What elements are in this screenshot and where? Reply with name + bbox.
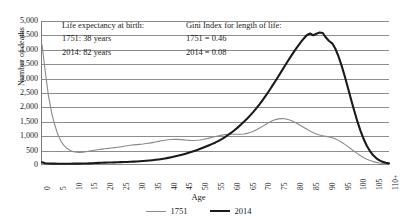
legend-item-2014: 2014 — [210, 206, 252, 216]
y-tick-label: 2,500 — [4, 89, 38, 97]
annotation-life-expectancy-2014: 2014: 82 years — [62, 48, 111, 57]
annotation-life-expectancy-title: Life expectancy at birth: — [62, 21, 144, 30]
x-tick-label: 35 — [155, 183, 163, 191]
x-tick-label: 45 — [186, 183, 194, 191]
chart-legend: 17512014 — [0, 206, 397, 216]
x-tick-label: 95 — [345, 183, 353, 191]
y-tick-label: 5,000 — [4, 17, 38, 25]
y-tick-label: 4,500 — [4, 31, 38, 39]
series-line-1751 — [42, 44, 389, 163]
x-tick-label: 0 — [44, 186, 52, 190]
y-tick-label: 0 — [4, 161, 38, 169]
x-tick-label: 25 — [123, 183, 131, 191]
y-tick-label: 1,500 — [4, 118, 38, 126]
x-tick-label: 30 — [139, 183, 147, 191]
x-axis-title: Age — [0, 192, 397, 202]
x-tick-label: 105 — [376, 179, 384, 190]
x-tick-label: 85 — [313, 183, 321, 191]
x-tick-label: 100 — [360, 179, 368, 190]
y-tick-label: 500 — [4, 147, 38, 155]
y-axis-tick-labels: 05001,0001,5002,0002,5003,0003,5004,0004… — [0, 0, 38, 223]
y-tick-label: 2,000 — [4, 103, 38, 111]
annotation-life-expectancy-1751: 1751: 38 years — [62, 34, 111, 43]
legend-item-1751: 1751 — [146, 206, 188, 216]
y-tick-label: 1,000 — [4, 132, 38, 140]
legend-swatch-2014 — [210, 210, 230, 212]
y-tick-label: 3,000 — [4, 75, 38, 83]
annotation-gini-title: Gini Index for length of life: — [186, 21, 282, 30]
annotation-gini-1751: 1751 = 0.46 — [186, 34, 226, 43]
x-tick-label: 65 — [250, 183, 258, 191]
x-tick-label: 10 — [76, 183, 84, 191]
x-tick-label: 70 — [265, 183, 273, 191]
x-tick-label: 110+ — [392, 175, 400, 190]
y-tick-label: 3,500 — [4, 60, 38, 68]
x-tick-label: 80 — [297, 183, 305, 191]
legend-label-1751: 1751 — [171, 206, 188, 216]
legend-swatch-1751 — [146, 211, 166, 212]
x-tick-label: 20 — [107, 183, 115, 191]
x-tick-label: 15 — [91, 183, 99, 191]
annotation-gini-2014: 2014 = 0.08 — [186, 48, 226, 57]
x-tick-label: 5 — [60, 186, 68, 190]
x-tick-label: 75 — [281, 183, 289, 191]
legend-label-2014: 2014 — [235, 206, 252, 216]
x-tick-label: 90 — [329, 183, 337, 191]
x-tick-label: 60 — [234, 183, 242, 191]
x-tick-label: 40 — [171, 183, 179, 191]
x-tick-label: 55 — [218, 183, 226, 191]
x-tick-label: 50 — [202, 183, 210, 191]
y-tick-label: 4,000 — [4, 46, 38, 54]
